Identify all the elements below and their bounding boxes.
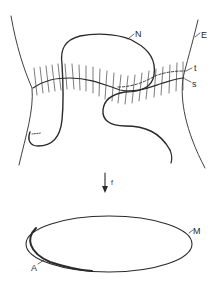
leader-s xyxy=(185,79,191,82)
label-e: E xyxy=(201,30,207,40)
hatched-band xyxy=(34,62,183,104)
label-a: A xyxy=(31,263,37,273)
label-f: f xyxy=(111,179,113,186)
surface-left-boundary xyxy=(11,16,32,165)
map-arrow-f xyxy=(102,173,108,193)
loop-n-tail xyxy=(170,150,172,163)
label-n: N xyxy=(135,29,142,39)
leader-n xyxy=(128,34,134,39)
label-s: s xyxy=(192,79,197,89)
curve-t xyxy=(118,71,185,87)
label-t: t xyxy=(194,63,197,73)
arc-a xyxy=(30,228,92,271)
leader-t xyxy=(186,68,192,71)
dotted-stub xyxy=(32,133,41,134)
surface-right-boundary xyxy=(182,20,205,168)
leader-e xyxy=(195,33,200,37)
diagram-canvas: N E t s f M A xyxy=(0,0,219,292)
ellipse-m xyxy=(26,216,192,272)
label-m: M xyxy=(193,226,201,236)
